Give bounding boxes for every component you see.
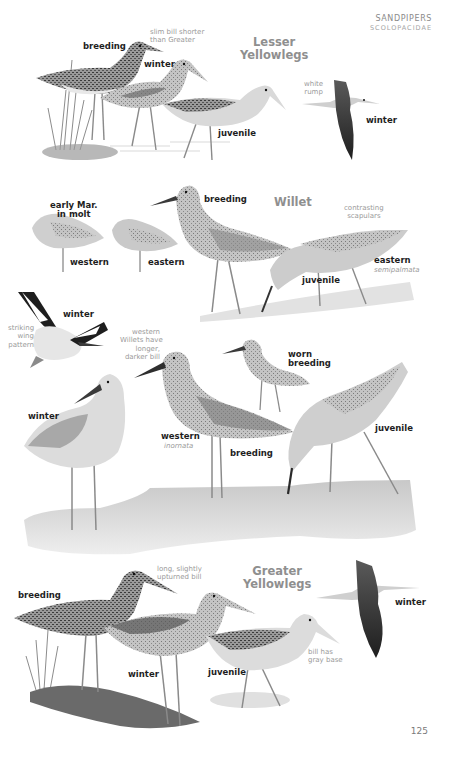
label-early-march-molt: early Mar. in molt — [50, 201, 98, 220]
willet-group — [18, 186, 416, 555]
page-header: SANDPIPERS SCOLOPACIDAE — [370, 14, 432, 32]
note-line: bill has — [308, 648, 343, 656]
note-upturned-bill: long, slightly upturned bill — [157, 565, 202, 582]
grass-tuft-lower — [26, 630, 58, 690]
lesser-yellowlegs-group — [36, 41, 380, 160]
label-winter-greater: winter — [128, 670, 159, 679]
species-title-greater-yellowlegs: Greater Yellowlegs — [243, 565, 311, 591]
note-line: western — [120, 328, 160, 336]
note-line: rump — [304, 88, 323, 96]
note-line: longer, — [120, 345, 160, 353]
species-title-lesser-yellowlegs: Lesser Yellowlegs — [240, 36, 308, 62]
note-gray-base: bill has gray base — [308, 648, 343, 665]
label-eastern-resting: eastern — [148, 258, 185, 267]
label-western: western — [161, 432, 200, 441]
title-line-2: Yellowlegs — [243, 578, 311, 591]
shore-ground-upper — [200, 282, 414, 322]
note-line: darker bill — [120, 353, 160, 361]
note-line: slim bill shorter — [150, 28, 204, 36]
note-inornata: inornata — [164, 442, 193, 450]
lesser-yellowlegs-juvenile-bird — [162, 86, 286, 160]
note-line: than Greater — [150, 36, 204, 44]
note-slim-bill: slim bill shorter than Greater — [150, 28, 204, 45]
note-contrasting-scapulars: contrasting scapulars — [344, 204, 384, 221]
label-line: breeding — [288, 359, 331, 368]
note-line: long, slightly — [157, 565, 202, 573]
water-puddle — [210, 692, 290, 708]
label-juvenile-top: juvenile — [302, 276, 340, 285]
label-breeding: breeding — [83, 42, 126, 51]
note-line: white — [304, 80, 323, 88]
note-line: pattern — [8, 341, 34, 349]
note-line: Willets have — [120, 336, 160, 344]
label-winter: winter — [144, 60, 175, 69]
label-eastern: eastern — [374, 256, 411, 265]
label-flight-winter-willet: winter — [63, 310, 94, 319]
label-flight-winter: winter — [366, 116, 397, 125]
species-title-willet: Willet — [274, 196, 312, 209]
note-line: gray base — [308, 656, 343, 664]
note-semipalmata: semipalmata — [374, 266, 420, 274]
label-juvenile-greater: juvenile — [208, 668, 246, 677]
label-flight-winter-greater: winter — [395, 598, 426, 607]
note-line: scapulars — [344, 212, 384, 220]
label-juvenile-lower: juvenile — [375, 424, 413, 433]
label-breeding-greater: breeding — [18, 591, 61, 600]
note-striking-wing: striking wing pattern — [8, 324, 34, 349]
marsh-ground — [42, 144, 118, 160]
scientific-family-name: SCOLOPACIDAE — [370, 24, 432, 32]
title-line-2: Yellowlegs — [240, 49, 308, 62]
pebble-bank — [30, 685, 200, 728]
note-line: upturned bill — [157, 573, 202, 581]
note-line: contrasting — [344, 204, 384, 212]
note-line: wing — [8, 332, 34, 340]
note-white-rump: white rump — [304, 80, 323, 97]
label-juvenile: juvenile — [218, 129, 256, 138]
note-western-bill: western Willets have longer, darker bill — [120, 328, 160, 362]
family-name: SANDPIPERS — [370, 14, 432, 23]
greater-yellowlegs-group — [14, 560, 420, 728]
greater-yellowlegs-flight-bird — [316, 560, 420, 658]
label-western-resting: western — [70, 258, 109, 267]
label-winter-willet: winter — [28, 412, 59, 421]
page-number: 125 — [411, 726, 428, 736]
label-line: in molt — [50, 210, 98, 219]
label-breeding-top: breeding — [204, 195, 247, 204]
note-line: striking — [8, 324, 34, 332]
label-worn-breeding: worn breeding — [288, 350, 331, 369]
shore-ground-lower — [24, 480, 416, 554]
label-breeding-lower: breeding — [230, 449, 273, 458]
willet-breeding-bird — [150, 186, 294, 314]
